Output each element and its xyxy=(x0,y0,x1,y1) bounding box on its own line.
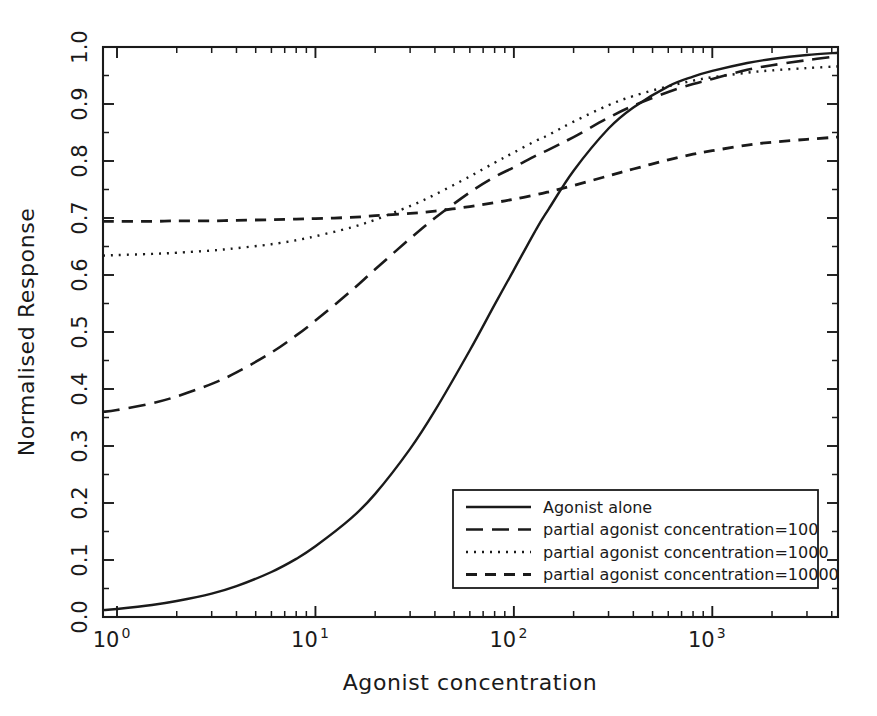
svg-text:10: 10 xyxy=(93,628,120,652)
y-tick-label: 0.8 xyxy=(68,144,92,177)
svg-text:10: 10 xyxy=(490,628,517,652)
chart-figure: 1001011021030.00.10.20.30.40.50.60.70.80… xyxy=(0,0,877,716)
svg-text:1: 1 xyxy=(320,625,329,641)
y-tick-label: 0.5 xyxy=(68,315,92,348)
y-tick-label: 0.3 xyxy=(68,429,92,462)
svg-text:10: 10 xyxy=(688,628,715,652)
chart-legend[interactable]: Agonist alonepartial agonist concentrati… xyxy=(453,490,839,588)
y-tick-label: 0.7 xyxy=(68,201,92,234)
y-tick-label: 0.2 xyxy=(68,486,92,519)
svg-text:2: 2 xyxy=(518,625,527,641)
x-axis-label: Agonist concentration xyxy=(343,670,598,695)
y-tick-label: 0.0 xyxy=(68,600,92,633)
legend-label: partial agonist concentration=100 xyxy=(543,520,818,539)
chart-svg: 1001011021030.00.10.20.30.40.50.60.70.80… xyxy=(0,0,877,716)
legend-label: partial agonist concentration=10000 xyxy=(543,565,839,584)
svg-text:10: 10 xyxy=(291,628,318,652)
legend-label: Agonist alone xyxy=(543,498,652,517)
y-axis-label: Normalised Response xyxy=(14,208,39,457)
y-tick-label: 0.6 xyxy=(68,258,92,291)
svg-text:0: 0 xyxy=(122,625,131,641)
y-tick-label: 0.9 xyxy=(68,87,92,120)
y-tick-label: 0.4 xyxy=(68,372,92,405)
legend-label: partial agonist concentration=1000 xyxy=(543,543,829,562)
y-tick-label: 0.1 xyxy=(68,543,92,576)
svg-text:3: 3 xyxy=(717,625,726,641)
y-tick-label: 1.0 xyxy=(68,30,92,63)
